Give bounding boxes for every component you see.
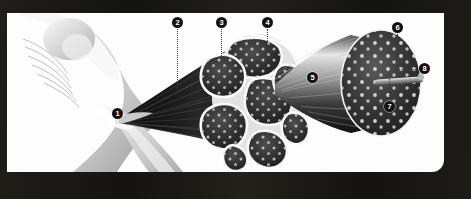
callout-marker-6[interactable]: 6 [392, 22, 403, 33]
callout-marker-3[interactable]: 3 [216, 17, 227, 28]
leader-line-8 [391, 69, 422, 70]
leader-line-4 [267, 29, 268, 53]
leader-line-3 [221, 29, 222, 76]
callout-marker-2[interactable]: 2 [172, 17, 183, 28]
arm-illustration [15, 13, 183, 172]
callout-marker-1[interactable]: 1 [112, 108, 123, 119]
callout-marker-7[interactable]: 7 [384, 101, 395, 112]
leader-line-4-hook [262, 51, 263, 52]
callout-marker-4[interactable]: 4 [262, 17, 273, 28]
callout-marker-8[interactable]: 8 [419, 63, 430, 74]
figure-panel [7, 13, 444, 172]
leader-line-2 [177, 29, 178, 92]
callout-marker-5[interactable]: 5 [307, 72, 318, 83]
figure-frame: 1 2 3 4 5 6 7 8 [0, 0, 471, 199]
anatomy-illustration [7, 13, 444, 172]
leader-line-6 [397, 34, 398, 70]
